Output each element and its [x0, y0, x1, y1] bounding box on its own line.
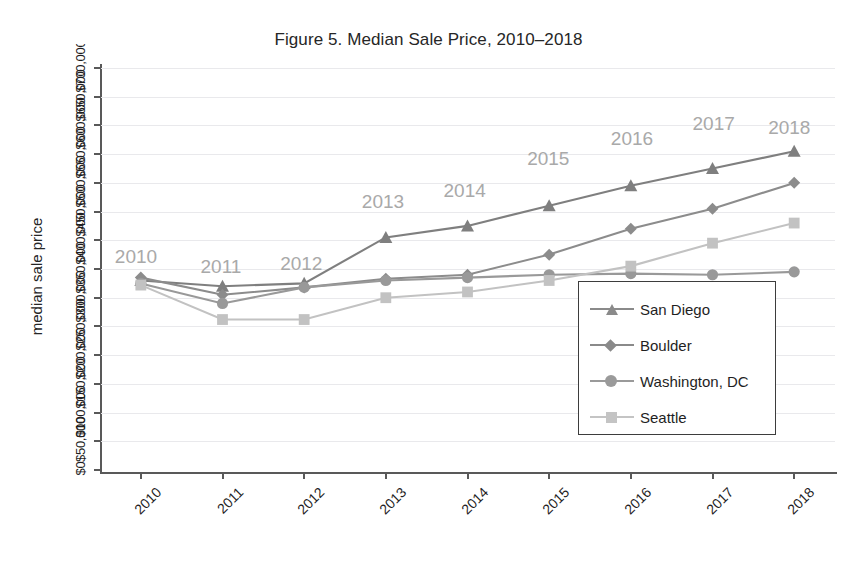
- data-point-marker: [217, 298, 228, 309]
- point-annotation: 2011: [201, 256, 242, 278]
- data-point-marker: [462, 287, 473, 298]
- chart-legend[interactable]: San Diego Boulder Washington, DC Seattle: [578, 281, 776, 435]
- y-axis-tick-labels: $0$50,000$100,000$150,000$200,000$250,00…: [56, 44, 100, 480]
- data-point-marker: [462, 272, 473, 283]
- data-point-marker: [707, 269, 718, 280]
- x-axis-tick: [140, 472, 142, 479]
- x-axis-tick-label: 2018: [757, 484, 818, 545]
- data-point-marker: [788, 145, 801, 157]
- x-axis-tick: [630, 472, 632, 479]
- point-annotation: 2017: [693, 113, 735, 135]
- x-axis-tick: [303, 472, 305, 479]
- point-annotation: 2018: [768, 117, 810, 139]
- data-point-marker: [135, 280, 146, 291]
- chart-canvas: Figure 5. Median Sale Price, 2010–2018 m…: [0, 0, 857, 561]
- x-axis-tick-label: 2010: [103, 484, 164, 545]
- x-axis-tick-label: 2014: [430, 484, 491, 545]
- legend-key-circle-icon: [590, 374, 634, 388]
- point-annotation: 2013: [362, 191, 404, 213]
- data-point-marker: [380, 292, 391, 303]
- x-axis-tick: [712, 472, 714, 479]
- point-annotation: 2016: [611, 128, 653, 150]
- legend-item-seattle[interactable]: Seattle: [579, 399, 775, 435]
- legend-label: Washington, DC: [640, 373, 749, 390]
- data-point-marker: [789, 218, 800, 229]
- data-point-marker: [544, 275, 555, 286]
- data-point-marker: [299, 282, 310, 293]
- data-point-marker: [788, 177, 800, 189]
- x-axis-tick-label: 2015: [512, 484, 573, 545]
- point-annotation: 2010: [115, 246, 157, 268]
- data-point-marker: [707, 238, 718, 249]
- legend-key-triangle-icon: [590, 302, 634, 316]
- point-annotation: 2015: [527, 148, 569, 170]
- x-axis-tick-label: 2011: [185, 484, 246, 545]
- x-axis-tick: [793, 472, 795, 479]
- point-annotation: 2012: [280, 253, 322, 275]
- legend-item-boulder[interactable]: Boulder: [579, 327, 775, 363]
- data-point-marker: [789, 266, 800, 277]
- legend-label: Seattle: [640, 409, 687, 426]
- x-axis-tick: [548, 472, 550, 479]
- data-point-marker: [217, 314, 228, 325]
- chart-title: Figure 5. Median Sale Price, 2010–2018: [0, 30, 857, 50]
- legend-item-san-diego[interactable]: San Diego: [579, 291, 775, 327]
- x-axis-line: [100, 472, 837, 474]
- legend-item-washington-dc[interactable]: Washington, DC: [579, 363, 775, 399]
- x-axis-tick: [222, 472, 224, 479]
- data-point-marker: [380, 275, 391, 286]
- x-axis-tick: [385, 472, 387, 479]
- point-annotation: 2014: [444, 180, 486, 202]
- x-axis-tick-label: 2017: [675, 484, 736, 545]
- data-point-marker: [625, 223, 637, 235]
- x-axis-tick-label: 2016: [593, 484, 654, 545]
- data-point-marker: [625, 261, 636, 272]
- data-point-marker: [707, 203, 719, 215]
- x-axis-tick-label: 2013: [348, 484, 409, 545]
- x-axis-tick: [467, 472, 469, 479]
- data-point-marker: [543, 249, 555, 261]
- legend-label: Boulder: [640, 337, 692, 354]
- legend-key-diamond-icon: [590, 338, 634, 352]
- y-axis-title: median sale price: [28, 167, 45, 387]
- x-axis-tick-label: 2012: [267, 484, 328, 545]
- legend-label: San Diego: [640, 301, 710, 318]
- data-point-marker: [299, 314, 310, 325]
- y-axis-tick-label: $700,000: [73, 44, 88, 137]
- legend-key-square-icon: [590, 410, 634, 424]
